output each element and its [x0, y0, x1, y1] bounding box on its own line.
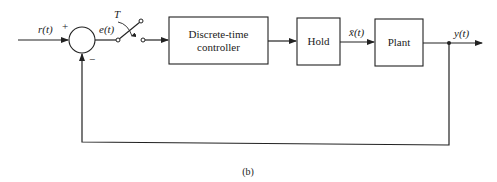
hold-label: Hold	[308, 35, 331, 47]
plant-label: Plant	[388, 36, 411, 48]
input-label: r(t)	[38, 23, 53, 36]
summing-junction	[69, 27, 95, 53]
sampling-period-label: T	[114, 8, 121, 20]
output-label: y(t)	[453, 27, 470, 40]
controller-label-line1: Discrete-time	[189, 28, 249, 40]
minus-sign: −	[89, 53, 95, 65]
controller-label-line2: controller	[197, 41, 240, 53]
hold-output-label: x̄(t)	[348, 26, 365, 39]
figure-caption: (b)	[242, 166, 254, 178]
plus-sign: +	[62, 20, 68, 32]
sampler-switch	[116, 19, 145, 42]
error-label: e(t)	[99, 23, 115, 36]
